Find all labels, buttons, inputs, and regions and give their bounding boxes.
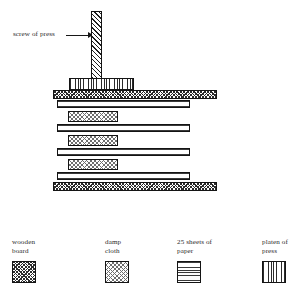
legend-label-paper: 25 sheets of paper [177,238,212,257]
legend-item-damp-cloth: damp cloth [105,238,129,283]
wooden-board-top [53,90,217,99]
legend-swatch-wooden-board [12,261,36,283]
legend-swatch-damp-cloth [105,261,129,283]
wooden-board-bottom [53,182,217,191]
legend-item-platen: platen of press [262,238,288,283]
paper-stack-3 [57,148,190,156]
legend-item-wooden-board: wooden board [12,238,36,283]
damp-cloth-3 [68,159,118,170]
paper-stack-2 [57,124,190,132]
legend-label-platen: platen of press [262,238,288,257]
diagram-canvas: screw of press wooden board damp cloth 2… [0,0,305,284]
callout-label-screw-of-press: screw of press [13,30,55,39]
paper-stack-4 [57,172,190,180]
legend-swatch-platen [262,261,286,283]
damp-cloth-2 [68,135,118,146]
damp-cloth-1 [68,111,118,122]
legend-swatch-paper [177,261,201,283]
legend-label-damp-cloth: damp cloth [105,238,129,257]
screw-of-press [91,11,102,88]
platen-of-press [69,78,134,90]
callout-leader-line [66,35,90,36]
legend-item-paper: 25 sheets of paper [177,238,212,283]
paper-stack-1 [57,100,190,108]
legend-label-wooden-board: wooden board [12,238,36,257]
